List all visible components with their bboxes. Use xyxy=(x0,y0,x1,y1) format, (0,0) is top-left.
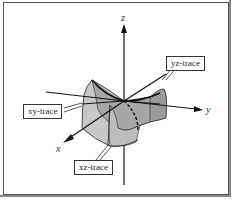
saddle-surface-figure xyxy=(0,0,234,201)
y-axis-label: y xyxy=(206,104,210,115)
z-axis-arrowhead xyxy=(121,24,127,33)
xy-trace-callout xyxy=(64,103,82,112)
xy-trace-label: xy-trace xyxy=(23,104,62,119)
yz-trace-label: yz-trace xyxy=(166,56,205,71)
y-axis-arrowhead xyxy=(194,106,203,112)
xz-trace-callout xyxy=(96,145,111,160)
xz-trace-label: xz-trace xyxy=(74,160,113,175)
z-axis-label: z xyxy=(121,12,125,23)
x-axis-label: x xyxy=(56,143,60,154)
